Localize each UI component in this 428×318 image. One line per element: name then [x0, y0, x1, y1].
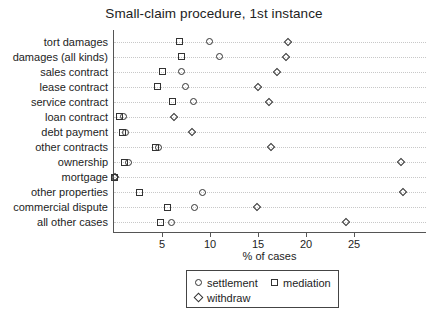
- x-axis-title: % of cases: [113, 250, 426, 262]
- data-point-withdraw-0: [284, 37, 292, 45]
- x-tick-label: 10: [195, 238, 225, 250]
- gridline: [114, 192, 426, 193]
- gridline: [114, 207, 426, 208]
- x-tick: [162, 232, 163, 237]
- x-tick: [306, 232, 307, 237]
- data-point-mediation-1: [178, 53, 185, 60]
- y-axis-label-lease-contract: lease contract: [40, 81, 108, 93]
- data-point-withdraw-10: [399, 188, 407, 196]
- y-axis-label-tort-damages: tort damages: [44, 36, 108, 48]
- data-point-mediation-6: [119, 129, 126, 136]
- x-tick-label: 15: [243, 238, 273, 250]
- y-axis-label-service-contract: service contract: [31, 96, 108, 108]
- data-point-withdraw-3: [254, 83, 262, 91]
- data-point-mediation-7: [152, 144, 159, 151]
- legend-item-withdraw: withdraw: [195, 291, 250, 304]
- data-point-withdraw-2: [273, 67, 281, 75]
- data-point-settlement-12: [168, 219, 175, 226]
- data-point-mediation-10: [136, 189, 143, 196]
- data-point-withdraw-12: [342, 218, 350, 226]
- square-marker-icon: [271, 279, 278, 286]
- gridline: [114, 117, 426, 118]
- data-point-mediation-4: [169, 98, 176, 105]
- legend: settlementmediationwithdraw: [186, 270, 339, 308]
- y-axis-label-other-contracts: other contracts: [35, 141, 108, 153]
- gridline: [114, 162, 426, 163]
- y-axis-label-other-properties: other properties: [31, 186, 108, 198]
- y-axis-category-labels: tort damagesdamages (all kinds)sales con…: [0, 34, 110, 230]
- legend-item-settlement: settlement: [195, 276, 258, 289]
- y-axis-label-commercial-dispute: commercial dispute: [13, 201, 108, 213]
- gridline: [114, 177, 426, 178]
- chart-title: Small-claim procedure, 1st instance: [0, 6, 428, 21]
- y-axis-label-mortgage: mortgage: [62, 171, 108, 183]
- data-point-mediation-3: [154, 83, 161, 90]
- data-point-settlement-1: [216, 53, 223, 60]
- diamond-marker-icon: [194, 292, 204, 302]
- data-point-withdraw-5: [170, 113, 178, 121]
- data-point-settlement-11: [191, 204, 198, 211]
- data-point-settlement-10: [199, 189, 206, 196]
- data-point-mediation-11: [164, 204, 171, 211]
- data-point-mediation-12: [157, 219, 164, 226]
- y-axis-label-damages-all-kinds-: damages (all kinds): [13, 51, 108, 63]
- gridline: [114, 57, 426, 58]
- data-point-settlement-0: [206, 38, 213, 45]
- x-tick-label: 20: [291, 238, 321, 250]
- data-point-mediation-2: [159, 68, 166, 75]
- data-point-mediation-5: [116, 113, 123, 120]
- y-axis-label-loan-contract: loan contract: [45, 111, 108, 123]
- data-point-settlement-4: [190, 98, 197, 105]
- y-axis-label-sales-contract: sales contract: [40, 66, 108, 78]
- data-point-withdraw-11: [253, 203, 261, 211]
- x-axis-line: [113, 232, 426, 233]
- circle-marker-icon: [195, 279, 202, 286]
- data-point-withdraw-7: [267, 143, 275, 151]
- gridline: [114, 42, 426, 43]
- legend-label: withdraw: [207, 292, 250, 304]
- x-tick-label: 5: [147, 238, 177, 250]
- x-tick: [258, 232, 259, 237]
- data-point-withdraw-6: [188, 128, 196, 136]
- x-tick: [210, 232, 211, 237]
- x-tick-label: 25: [339, 238, 369, 250]
- data-point-settlement-2: [178, 68, 185, 75]
- data-point-mediation-0: [176, 38, 183, 45]
- gridline: [114, 132, 426, 133]
- legend-label: mediation: [283, 277, 331, 289]
- gridline: [114, 87, 426, 88]
- data-point-mediation-8: [121, 159, 128, 166]
- data-point-withdraw-8: [397, 158, 405, 166]
- plot-area: [114, 34, 426, 230]
- data-point-withdraw-4: [264, 98, 272, 106]
- y-axis-label-all-other-cases: all other cases: [37, 216, 108, 228]
- legend-item-mediation: mediation: [271, 276, 331, 289]
- y-axis-label-ownership: ownership: [58, 156, 108, 168]
- x-tick: [354, 232, 355, 237]
- legend-label: settlement: [207, 277, 258, 289]
- data-point-settlement-3: [182, 83, 189, 90]
- y-axis-label-debt-payment: debt payment: [41, 126, 108, 138]
- data-point-withdraw-1: [282, 52, 290, 60]
- chart-container: Small-claim procedure, 1st instance tort…: [0, 0, 428, 318]
